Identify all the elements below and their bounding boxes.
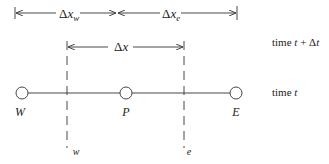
node-label-p: P [121, 105, 130, 119]
face-label-w: w [73, 146, 80, 157]
node-w-circle [16, 87, 28, 99]
diagram-canvas: Δxw Δxe Δx W P E w e time t + Δt time [0, 0, 329, 164]
dimension-dx-e: Δxe [118, 6, 237, 23]
time-level-lower: time t [272, 86, 298, 98]
label-dx-e: Δxe [162, 6, 180, 23]
node-p-circle [120, 87, 132, 99]
label-dx: Δx [114, 39, 128, 54]
dimension-dx-w: Δxw [15, 6, 116, 23]
label-dx-w: Δxw [59, 6, 79, 23]
node-e-circle [230, 87, 242, 99]
face-label-e: e [187, 146, 192, 157]
node-label-e: E [231, 105, 240, 119]
dimension-dx: Δx [68, 39, 183, 54]
node-label-w: W [15, 105, 26, 119]
time-level-upper: time t + Δt [272, 36, 320, 48]
